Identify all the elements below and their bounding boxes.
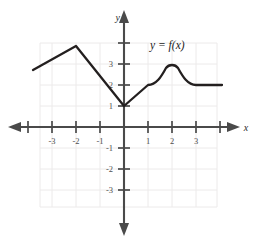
x-axis-label: x	[243, 122, 249, 133]
x-axis-arrow-right	[227, 122, 240, 132]
grid-lines	[40, 43, 217, 207]
x-axis-arrow-left	[8, 122, 21, 132]
function-graph-figure: -3 -2 -1 1 2 3 3 2 1 -1 -2 -3 x y y = f(…	[0, 0, 258, 240]
axes	[8, 10, 240, 236]
x-tick-label-neg3: -3	[48, 136, 55, 146]
function-label: y = f(x)	[149, 39, 185, 52]
y-tick-label-neg3: -3	[106, 185, 113, 195]
x-tick-label-neg2: -2	[72, 136, 79, 146]
y-tick-label-neg2: -2	[106, 164, 113, 174]
coordinate-plane: -3 -2 -1 1 2 3 3 2 1 -1 -2 -3 x y y = f(…	[0, 0, 258, 240]
y-axis-label: y	[115, 12, 121, 23]
y-tick-label-3: 3	[109, 59, 113, 69]
y-axis-arrow-down	[119, 223, 129, 236]
function-curve	[33, 46, 222, 106]
y-axis-arrow-up	[119, 10, 129, 23]
x-tick-label-neg1: -1	[96, 136, 103, 146]
y-tick-label-neg1: -1	[106, 143, 113, 153]
x-tick-label-2: 2	[170, 136, 174, 146]
x-tick-label-3: 3	[194, 136, 198, 146]
x-tick-label-1: 1	[146, 136, 150, 146]
y-tick-label-1: 1	[109, 101, 113, 111]
